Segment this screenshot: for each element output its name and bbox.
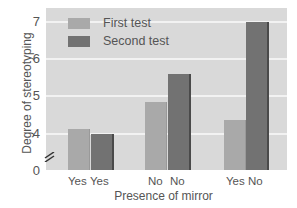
x-axis-label: Presence of mirror [0,189,297,203]
x-tick-g1a: Yes [68,175,87,187]
bar-no-no-first [145,102,167,170]
legend-swatch-first [68,18,90,29]
legend-label-second: Second test [103,34,169,48]
legend-label-first: First test [103,16,151,30]
y-tick-5: 5 [26,88,40,103]
y-tick-6: 6 [26,51,40,66]
x-tick-g2b: No [170,175,185,187]
bar-yes-yes-first [68,129,90,170]
x-tick-g2a: No [148,175,163,187]
x-tick-g3b: No [248,175,263,187]
x-tick-g1b: Yes [90,175,109,187]
legend-swatch-second [68,36,90,47]
bar-yes-yes-second [91,134,114,170]
y-tick-4: 4 [26,126,40,141]
plot-area [46,8,287,170]
x-tick-g3a: Yes [226,175,245,187]
bar-yes-no-second [246,22,269,170]
bar-yes-no-first [224,120,246,170]
y-tick-7: 7 [26,14,40,29]
axis-break-icon [44,152,58,162]
bar-no-no-second [168,74,191,170]
y-tick-0: 0 [26,163,40,178]
